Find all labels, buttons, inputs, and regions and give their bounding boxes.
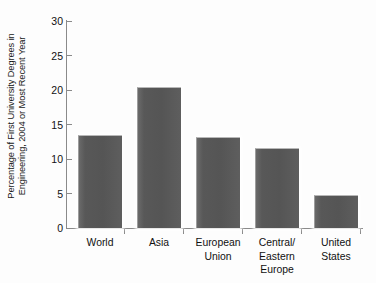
x-label-united-states-line-2: States	[306, 250, 366, 264]
x-label-world: World	[70, 236, 130, 250]
x-label-central-eastern-europe: Central/ Eastern Europe	[246, 236, 308, 277]
x-tick-mark-1	[124, 229, 125, 234]
y-tick-20: 20	[36, 84, 72, 96]
x-label-central-eastern-europe-line-3: Europe	[246, 263, 308, 277]
x-label-european-union: European Union	[186, 236, 250, 263]
y-tick-mark-20	[67, 90, 72, 91]
y-tick-0: 0	[36, 222, 72, 234]
x-label-united-states: United States	[306, 236, 366, 263]
y-axis-title-line-1: Percentage of First University Degrees i…	[6, 33, 17, 198]
y-tick-mark-0	[67, 228, 72, 229]
y-tick-30: 30	[36, 15, 72, 27]
x-label-asia-line-1: Asia	[129, 236, 189, 250]
y-tick-label-25: 25	[39, 50, 63, 62]
bar-central-eastern-europe	[255, 148, 299, 228]
x-tick-mark-2	[183, 229, 184, 234]
y-tick-label-0: 0	[39, 222, 63, 234]
y-tick-5: 5	[36, 188, 72, 200]
bar-united-states	[314, 195, 358, 228]
bar-asia	[137, 87, 181, 228]
y-tick-label-20: 20	[39, 84, 63, 96]
x-label-world-line-1: World	[70, 236, 130, 250]
x-label-european-union-line-2: Union	[186, 250, 250, 264]
x-label-united-states-line-1: United	[306, 236, 366, 250]
bar-world	[78, 135, 122, 228]
y-tick-mark-25	[67, 55, 72, 56]
y-axis-title-line-2: Engineering, 2004 or Most Recent Year	[17, 37, 28, 196]
bar-european-union	[196, 137, 240, 228]
x-tick-mark-5	[360, 229, 361, 234]
x-label-central-eastern-europe-line-1: Central/	[246, 236, 308, 250]
x-label-european-union-line-1: European	[186, 236, 250, 250]
x-tick-mark-4	[301, 229, 302, 234]
y-tick-label-5: 5	[39, 188, 63, 200]
y-tick-15: 15	[36, 119, 72, 131]
y-tick-label-15: 15	[39, 119, 63, 131]
x-tick-mark-3	[242, 229, 243, 234]
bar-chart-figure: Percentage of First University Degrees i…	[0, 0, 376, 283]
y-tick-mark-10	[67, 159, 72, 160]
y-tick-label-10: 10	[39, 153, 63, 165]
x-axis-line	[66, 228, 363, 229]
y-axis-title: Percentage of First University Degrees i…	[0, 0, 34, 232]
y-tick-mark-15	[67, 124, 72, 125]
y-tick-mark-5	[67, 193, 72, 194]
y-tick-25: 25	[36, 50, 72, 62]
y-tick-mark-30	[67, 21, 72, 22]
x-label-asia: Asia	[129, 236, 189, 250]
y-tick-label-30: 30	[39, 15, 63, 27]
x-label-central-eastern-europe-line-2: Eastern	[246, 250, 308, 264]
y-tick-10: 10	[36, 153, 72, 165]
